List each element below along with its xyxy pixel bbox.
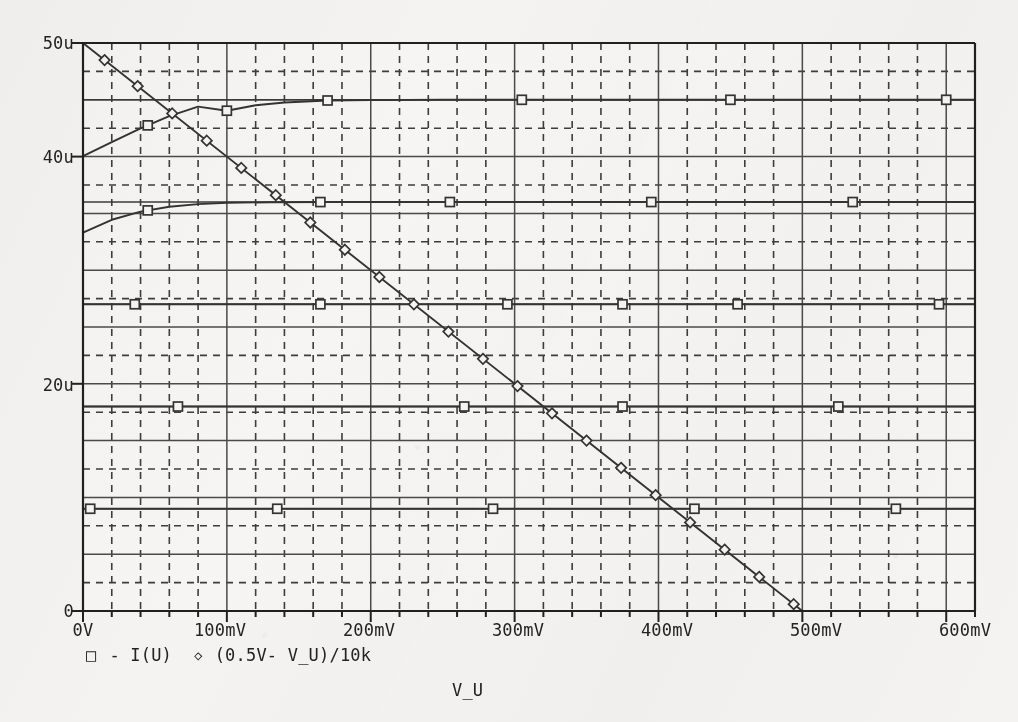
square-data-marker bbox=[517, 95, 526, 104]
square-data-marker bbox=[143, 121, 152, 130]
square-data-marker bbox=[222, 106, 231, 115]
square-data-marker bbox=[834, 402, 843, 411]
square-data-marker bbox=[316, 198, 325, 207]
square-data-marker bbox=[690, 504, 699, 513]
square-data-marker bbox=[460, 402, 469, 411]
photodiode-iv-chart bbox=[0, 0, 1018, 722]
square-data-marker bbox=[86, 504, 95, 513]
square-data-marker bbox=[489, 504, 498, 513]
square-data-marker bbox=[618, 402, 627, 411]
square-data-marker bbox=[647, 198, 656, 207]
square-data-marker bbox=[935, 300, 944, 309]
square-data-marker bbox=[130, 300, 139, 309]
square-data-marker bbox=[942, 95, 951, 104]
square-data-marker bbox=[726, 95, 735, 104]
square-data-marker bbox=[891, 504, 900, 513]
square-data-marker bbox=[733, 300, 742, 309]
square-data-marker bbox=[445, 198, 454, 207]
square-data-marker bbox=[316, 300, 325, 309]
square-data-marker bbox=[173, 402, 182, 411]
square-data-marker bbox=[143, 206, 152, 215]
square-data-marker bbox=[618, 300, 627, 309]
square-data-marker bbox=[848, 198, 857, 207]
square-data-marker bbox=[323, 96, 332, 105]
square-data-marker bbox=[503, 300, 512, 309]
square-data-marker bbox=[273, 504, 282, 513]
